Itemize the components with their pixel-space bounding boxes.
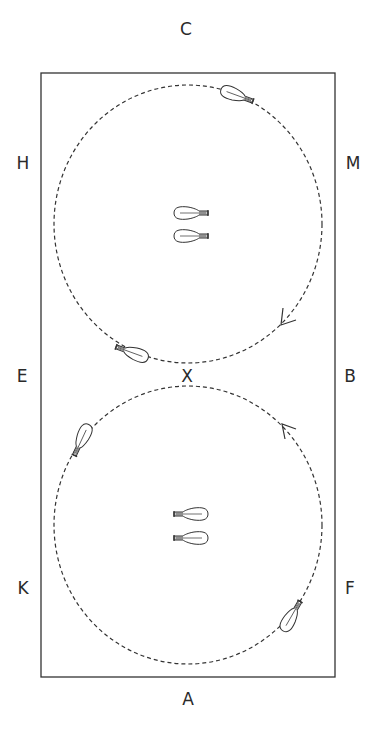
- horse-icon-lower-center-1: [174, 508, 208, 521]
- marker-a: A: [182, 691, 194, 708]
- marker-e: E: [17, 368, 28, 385]
- marker-k: K: [17, 580, 28, 597]
- horse-icon-upper-top: [219, 84, 255, 108]
- marker-x: X: [181, 368, 193, 385]
- marker-h: H: [17, 155, 30, 172]
- arrow-icon-lower: [282, 424, 296, 439]
- marker-c: C: [180, 21, 192, 38]
- horse-icon-upper-bottom: [114, 341, 150, 365]
- marker-m: M: [346, 155, 361, 172]
- marker-f: F: [345, 580, 355, 597]
- horse-icon-lower-center-2: [174, 532, 208, 545]
- horse-icon-lower-bottom: [278, 598, 306, 634]
- horse-icon-upper-center-1: [174, 207, 208, 220]
- horse-icon-lower-top: [69, 422, 95, 458]
- marker-b: B: [344, 368, 356, 385]
- horse-icon-upper-center-2: [174, 230, 208, 243]
